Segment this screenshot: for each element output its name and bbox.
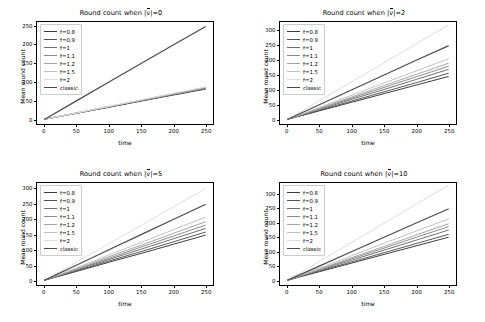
x-tick-label: 250	[444, 289, 454, 295]
legend-line-icon	[287, 240, 300, 241]
legend-line-icon	[287, 31, 300, 32]
legend-line-icon	[44, 240, 57, 241]
subplot-title: Round count when |v|=5	[0, 170, 242, 178]
x-tick-mark	[206, 125, 207, 127]
legend-line-icon	[44, 224, 57, 225]
legend-item: f=1.1	[44, 213, 78, 221]
legend-label: f=0.8	[60, 189, 75, 197]
legend-item: f=0.9	[287, 197, 321, 205]
legend-label: classic	[60, 84, 78, 92]
legend-label: f=1.1	[60, 52, 75, 60]
legend-item: f=1.5	[287, 229, 321, 237]
legend-label: f=1.1	[60, 213, 75, 221]
legend-item: f=1.2	[44, 221, 78, 229]
x-tick-label: 50	[316, 289, 323, 295]
legend-label: f=0.9	[60, 197, 75, 205]
x-tick-label: 200	[412, 289, 422, 295]
x-tick-mark	[76, 286, 77, 288]
legend-item: classic	[44, 245, 78, 253]
legend-label: classic	[303, 245, 321, 253]
x-tick-mark	[449, 286, 450, 288]
legend-label: f=0.9	[303, 197, 318, 205]
legend-line-icon	[44, 79, 57, 80]
legend-line-icon	[44, 39, 57, 40]
legend-label: f=0.8	[303, 189, 318, 197]
x-tick-mark	[109, 286, 110, 288]
x-tick-label: 100	[347, 128, 357, 134]
x-tick-mark	[44, 125, 45, 127]
legend-line-icon	[44, 232, 57, 233]
legend-line-icon	[287, 224, 300, 225]
title-vector-symbol: v	[146, 9, 150, 17]
x-axis-label: time	[36, 139, 214, 146]
legend-label: f=2	[303, 76, 313, 84]
legend-label: f=1	[303, 44, 313, 52]
x-tick-mark	[319, 125, 320, 127]
y-axis-label: Mean round count	[262, 186, 269, 290]
x-tick-mark	[352, 286, 353, 288]
x-tick-label: 0	[42, 289, 45, 295]
subplot-v5: Round count when |v|=5050100150200250300…	[0, 161, 242, 322]
x-tick-mark	[141, 125, 142, 127]
legend-line-icon	[44, 63, 57, 64]
legend-item: f=1.1	[287, 213, 321, 221]
x-tick-label: 150	[136, 289, 146, 295]
title-vector-symbol: v	[146, 170, 150, 178]
x-tick-label: 100	[347, 289, 357, 295]
x-axis-label: time	[279, 139, 457, 146]
x-tick-label: 150	[379, 128, 389, 134]
legend-label: f=1.5	[303, 229, 318, 237]
legend-line-icon	[287, 47, 300, 48]
x-tick-mark	[44, 286, 45, 288]
legend-label: f=1.5	[60, 229, 75, 237]
legend-item: f=0.9	[287, 36, 321, 44]
y-tick-label: 50	[26, 98, 33, 104]
x-tick-mark	[174, 286, 175, 288]
legend-label: f=1.2	[60, 60, 75, 68]
x-tick-mark	[352, 125, 353, 127]
legend-label: f=1.2	[60, 221, 75, 229]
legend-item: f=2	[287, 76, 321, 84]
title-vector-symbol: v	[389, 9, 393, 17]
legend-label: f=2	[60, 237, 70, 245]
x-tick-label: 0	[42, 128, 45, 134]
legend-line-icon	[287, 248, 300, 249]
legend-item: classic	[287, 245, 321, 253]
x-tick-label: 50	[73, 128, 80, 134]
x-tick-label: 250	[201, 289, 211, 295]
legend-line-icon	[287, 232, 300, 233]
y-tick-label: 50	[26, 263, 33, 269]
legend-label: f=0.8	[303, 28, 318, 36]
legend-line-icon	[287, 63, 300, 64]
x-tick-mark	[384, 286, 385, 288]
legend-item: f=1.5	[44, 229, 78, 237]
legend-item: f=1	[287, 205, 321, 213]
legend-item: f=0.8	[287, 189, 321, 197]
x-tick-mark	[206, 286, 207, 288]
legend-item: f=0.8	[44, 189, 78, 197]
x-tick-label: 200	[169, 289, 179, 295]
x-tick-label: 200	[412, 128, 422, 134]
legend-item: f=0.9	[44, 36, 78, 44]
subplot-title: Round count when |v|=0	[0, 9, 242, 17]
x-tick-mark	[287, 125, 288, 127]
title-prefix: Round count when |	[321, 170, 388, 178]
legend-line-icon	[287, 71, 300, 72]
x-tick-mark	[76, 125, 77, 127]
x-tick-mark	[384, 125, 385, 127]
subplot-title: Round count when |v|=10	[243, 170, 485, 178]
legend-line-icon	[287, 192, 300, 193]
legend-line-icon	[44, 200, 57, 201]
legend-line-icon	[287, 79, 300, 80]
title-prefix: Round count when |	[323, 9, 390, 17]
legend-line-icon	[44, 208, 57, 209]
x-tick-label: 200	[169, 128, 179, 134]
legend-label: f=0.9	[60, 36, 75, 44]
legend-item: f=1	[44, 44, 78, 52]
legend-label: f=1.1	[303, 213, 318, 221]
legend-item: f=1.5	[287, 68, 321, 76]
legend-item: f=1.2	[287, 60, 321, 68]
y-tick-label: 0	[29, 117, 32, 123]
legend-item: f=0.8	[44, 28, 78, 36]
legend-label: classic	[303, 84, 321, 92]
